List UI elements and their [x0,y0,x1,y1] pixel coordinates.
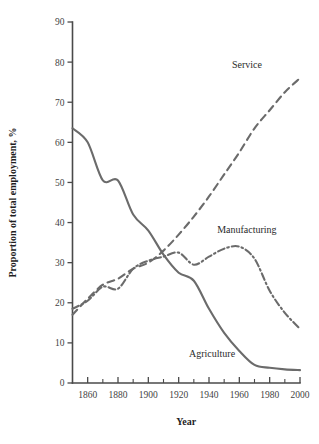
series-line-manufacturing [73,246,301,329]
y-tick-label: 70 [55,98,65,108]
series-label-service: Service [232,59,263,70]
x-tick-labels: 18601880190019201940196019802000 [78,390,310,400]
y-tick-label: 10 [55,338,65,348]
x-tick-label: 1980 [260,390,279,400]
x-tick-label: 1900 [139,390,158,400]
y-tick-label: 20 [55,298,65,308]
x-axis-title: Year [176,416,197,427]
y-tick-label: 40 [55,218,65,228]
employment-proportion-chart: 0102030405060708090 18601880190019201940… [0,0,319,444]
y-axis-group: 0102030405060708090 [55,17,73,388]
x-tick-label: 1920 [169,390,188,400]
y-tick-label: 50 [55,178,65,188]
x-axis-group: 18601880190019201940196019802000 [73,377,310,400]
y-tick-label: 80 [55,58,65,68]
series-annotations: AgricultureServiceManufacturing [189,59,277,359]
series-line-agriculture [73,128,301,370]
y-tick-label: 0 [60,378,65,388]
y-tick-labels: 0102030405060708090 [55,17,65,388]
y-tick-label: 90 [55,17,65,27]
x-tick-label: 1960 [230,390,249,400]
x-tick-label: 1880 [109,390,128,400]
chart-canvas: 0102030405060708090 18601880190019201940… [0,0,319,444]
series-line-service [73,78,301,315]
y-tick-label: 30 [55,258,65,268]
series-label-manufacturing: Manufacturing [217,224,276,235]
y-tick-label: 60 [55,138,65,148]
x-tick-label: 2000 [291,390,310,400]
series-label-agriculture: Agriculture [189,348,236,359]
x-tick-label: 1940 [200,390,219,400]
x-tick-label: 1860 [78,390,97,400]
y-axis-title: Proportion of total employment, % [7,127,18,277]
